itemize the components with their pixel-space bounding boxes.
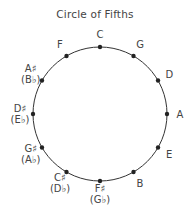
key-name: G♯ [24,143,37,154]
key-enharmonic: (B♭) [21,74,40,85]
key-dot [156,145,160,149]
key-dot [131,54,135,58]
key-label: F♯(G♭) [90,183,110,205]
key-dot [156,78,160,82]
key-enharmonic: (A♭) [21,154,40,165]
key-label: B [137,178,144,189]
key-dot [40,145,44,149]
key-label: C [97,29,104,40]
key-label: G♯(A♭) [21,143,40,165]
key-name: A [177,109,184,120]
key-label: G [136,39,144,50]
key-name: F♯ [95,183,106,194]
key-label: F [57,39,63,50]
key-enharmonic: (D♭) [50,183,70,194]
key-dot [131,170,135,174]
key-name: D♯ [14,103,27,114]
key-name: D [165,69,173,80]
key-label: C♯(D♭) [50,172,70,194]
key-dot [31,112,35,116]
key-label: A♯(B♭) [21,63,40,85]
key-name: G [136,39,144,50]
circle-of-fifths-diagram: CGDAEBF♯(G♭)C♯(D♭)G♯(A♭)D♯(E♭)A♯(B♭)F [0,0,190,222]
key-name: E [166,149,172,160]
key-name: B [137,178,144,189]
key-label: D♯(E♭) [11,103,30,125]
key-dot [165,112,169,116]
key-enharmonic: (E♭) [11,114,30,125]
key-name: C♯ [54,172,66,183]
key-label: D [165,69,173,80]
key-dot [64,54,68,58]
key-name: C [97,29,104,40]
key-label: A [177,109,184,120]
circle-ring [33,47,167,181]
key-dot [40,78,44,82]
key-name: A♯ [25,63,37,74]
key-name: F [57,39,63,50]
key-dot [98,45,102,49]
key-enharmonic: (G♭) [90,194,110,205]
key-label: E [166,149,172,160]
